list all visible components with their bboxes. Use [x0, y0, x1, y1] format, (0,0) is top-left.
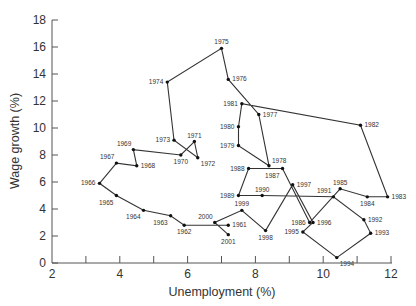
year-label: 1982 [364, 121, 379, 128]
data-point [338, 187, 341, 190]
year-label: 2001 [221, 238, 236, 245]
data-point [183, 224, 186, 227]
x-tick-label: 2 [49, 267, 56, 281]
year-label: 1981 [223, 100, 238, 107]
year-label: 1983 [392, 193, 407, 200]
year-label: 1966 [81, 179, 96, 186]
y-tick-label: 6 [39, 175, 46, 189]
data-point [281, 167, 284, 170]
y-tick-label: 12 [33, 94, 47, 108]
data-point [98, 182, 101, 185]
y-ticks: 024681012141618 [33, 13, 58, 270]
y-axis-label: Wage growth (%) [8, 93, 22, 189]
year-label: 1992 [368, 216, 383, 223]
year-label: 1978 [272, 157, 287, 164]
y-tick-label: 0 [39, 256, 46, 270]
data-point [240, 209, 243, 212]
data-point [267, 164, 270, 167]
data-point [362, 218, 365, 221]
y-tick-label: 16 [33, 40, 47, 54]
y-tick-label: 8 [39, 148, 46, 162]
year-label: 1971 [187, 132, 202, 139]
year-label: 1962 [177, 228, 192, 235]
year-label: 1998 [258, 234, 273, 241]
year-label: 1997 [297, 181, 312, 188]
x-tick-label: 4 [116, 267, 123, 281]
data-point [237, 194, 240, 197]
year-label: 1969 [117, 140, 132, 147]
year-label: 1980 [220, 123, 235, 130]
year-label: 1985 [333, 179, 348, 186]
data-point [169, 214, 172, 217]
data-point [237, 125, 240, 128]
year-label: 1994 [340, 260, 355, 267]
data-point [311, 221, 314, 224]
y-tick-label: 14 [33, 67, 47, 81]
year-label: 1974 [149, 78, 164, 85]
year-label: 1972 [201, 160, 216, 167]
data-point [220, 47, 223, 50]
year-label: 1977 [263, 111, 278, 118]
data-point [213, 221, 216, 224]
data-point [332, 195, 335, 198]
y-tick-label: 10 [33, 121, 47, 135]
x-tick-label: 8 [252, 267, 259, 281]
year-label: 1970 [174, 158, 189, 165]
year-label: 1975 [214, 38, 229, 45]
year-label: 1964 [126, 213, 141, 220]
data-point [359, 124, 362, 127]
x-axis-label: Unemployment (%) [169, 285, 276, 299]
data-point [308, 221, 311, 224]
year-label: 1973 [156, 136, 171, 143]
year-label: 1965 [99, 199, 114, 206]
data-point [166, 80, 169, 83]
year-label: 1999 [235, 200, 250, 207]
year-label: 1967 [100, 153, 115, 160]
year-label: 1991 [317, 187, 332, 194]
data-point [193, 140, 196, 143]
y-tick-label: 18 [33, 13, 47, 27]
y-tick-label: 4 [39, 202, 46, 216]
year-label: 1988 [230, 165, 245, 172]
data-point [227, 224, 230, 227]
year-label: 1995 [284, 228, 299, 235]
x-tick-label: 10 [317, 267, 331, 281]
data-point [264, 229, 267, 232]
data-point [257, 113, 260, 116]
year-label: 2000 [198, 213, 213, 220]
data-point [366, 195, 369, 198]
data-point [301, 230, 304, 233]
data-point [335, 256, 338, 259]
year-label: 1968 [141, 162, 156, 169]
data-point [237, 144, 240, 147]
year-label: 1990 [255, 186, 270, 193]
year-label: 1996 [317, 219, 332, 226]
year-label: 1989 [220, 192, 235, 199]
y-tick-label: 2 [39, 229, 46, 243]
year-label: 1963 [153, 219, 168, 226]
data-point [172, 138, 175, 141]
year-label: 1984 [360, 200, 375, 207]
data-point [386, 195, 389, 198]
x-tick-label: 12 [384, 267, 398, 281]
data-points: 1961196219631964196519661967196819691970… [81, 38, 406, 266]
year-label: 1986 [291, 219, 306, 226]
year-label: 1976 [232, 75, 247, 82]
data-point [115, 194, 118, 197]
data-point [227, 78, 230, 81]
data-point [179, 153, 182, 156]
data-point [240, 102, 243, 105]
data-point [132, 148, 135, 151]
data-point [260, 194, 263, 197]
data-point [196, 156, 199, 159]
data-point [135, 164, 138, 167]
data-point [227, 233, 230, 236]
data-point [291, 183, 294, 186]
data-point [142, 209, 145, 212]
year-label: 1987 [265, 172, 280, 179]
x-tick-label: 6 [184, 267, 191, 281]
data-point [369, 232, 372, 235]
year-label: 1993 [375, 229, 390, 236]
data-point [115, 161, 118, 164]
year-label: 1961 [232, 221, 247, 228]
